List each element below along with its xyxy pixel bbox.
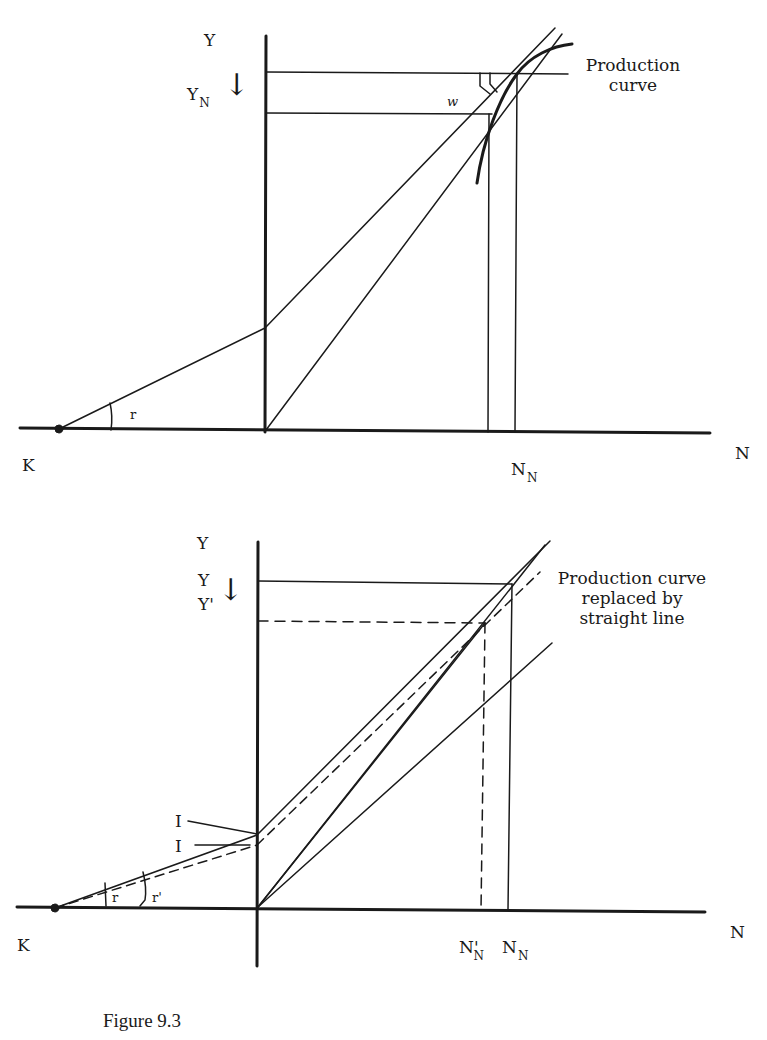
bottom-note-line3: straight line [542, 608, 722, 628]
top-down-arrow-icon: ↓ [224, 70, 249, 100]
top-yn-main: Y [187, 84, 198, 104]
top-y-axis-label: Y [204, 32, 215, 49]
bottom-n-axis [17, 907, 705, 912]
top-r-label: r [130, 408, 136, 421]
top-note-line1: Production [578, 55, 688, 75]
bottom-y-label: Y [198, 572, 209, 589]
bottom-i-label-2: I [175, 838, 182, 855]
bottom-note-line2: replaced by [542, 588, 722, 608]
top-n-axis [20, 428, 710, 433]
top-yn-label: YN [187, 86, 210, 103]
bottom-nn-prime-label: N'N [459, 939, 484, 956]
bottom-nn-label: NN [502, 939, 528, 956]
top-n-axis-label: N [735, 445, 750, 462]
bottom-nn-sub: N [518, 949, 529, 963]
bottom-y-axis [257, 542, 258, 966]
top-nn-sub: N [527, 471, 538, 485]
figure-caption: Figure 9.3 [103, 1010, 181, 1032]
top-yn-sub: N [199, 96, 210, 110]
bottom-k-label: K [17, 937, 30, 954]
bottom-r-prime-label: r' [152, 891, 162, 904]
figure-canvas [0, 0, 767, 1040]
bottom-y-prime-label: Y' [198, 596, 214, 613]
bottom-nn-prime-sub: N [474, 949, 485, 963]
top-nn-main: N [511, 459, 526, 479]
bottom-production-curve-note: Production curve replaced by straight li… [542, 568, 722, 628]
top-nn-label: NN [511, 461, 537, 478]
bottom-nn-main: N [502, 937, 517, 957]
top-production-curve-note: Production curve [578, 55, 688, 95]
bottom-note-line1: Production curve [542, 568, 722, 588]
bottom-y-axis-label: Y [197, 535, 208, 552]
top-note-line2: curve [578, 75, 688, 95]
bottom-i-label-1: I [175, 813, 182, 830]
bottom-n-axis-label: N [730, 924, 745, 941]
top-k-label: K [22, 457, 35, 474]
bottom-r-label: r [112, 891, 118, 904]
bottom-down-arrow-icon: ↓ [218, 575, 243, 605]
top-y-axis [265, 36, 266, 432]
top-w-label: w [447, 95, 458, 108]
